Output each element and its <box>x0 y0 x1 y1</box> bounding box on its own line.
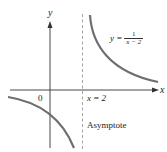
asymptote-equation: x = 2 <box>87 94 106 103</box>
curve-right-branch <box>90 15 158 82</box>
function-equation: y =1x − 2 <box>110 31 143 46</box>
x-axis-label: x <box>160 85 164 95</box>
y-axis-label: y <box>48 8 52 18</box>
asymptote-annotation: Asymptote <box>87 121 127 130</box>
equation-lhs: y = <box>110 33 122 43</box>
equation-fraction: 1x − 2 <box>124 31 143 46</box>
origin-label: 0 <box>38 94 43 103</box>
curve-left-branch <box>8 97 74 148</box>
hyperbola-diagram: y x 0 x = 2 Asymptote y =1x − 2 <box>0 0 167 152</box>
plot-canvas <box>0 0 167 152</box>
y-axis-arrow-icon <box>48 21 53 28</box>
equation-denominator: x − 2 <box>124 39 143 46</box>
x-axis-arrow-icon <box>152 88 159 93</box>
